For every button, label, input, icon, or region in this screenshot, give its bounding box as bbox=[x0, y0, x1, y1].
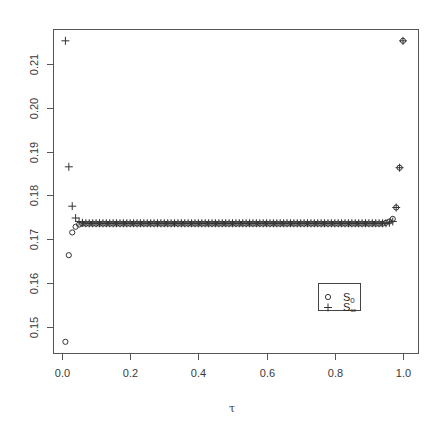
y-tick-label: 0.17 bbox=[28, 229, 40, 250]
x-tick-label: 0.6 bbox=[260, 367, 275, 379]
x-tick-label: 0.0 bbox=[55, 367, 70, 379]
x-tick-label: 1.0 bbox=[396, 367, 411, 379]
x-tick-label: 0.8 bbox=[328, 367, 343, 379]
x-tick-label: 0.4 bbox=[191, 367, 206, 379]
scatter-chart: 0.150.160.170.180.190.200.21 0.00.20.40.… bbox=[0, 0, 439, 428]
chart-background bbox=[0, 0, 439, 428]
y-tick-label: 0.16 bbox=[28, 273, 40, 294]
legend: S0 S∞ bbox=[319, 284, 361, 316]
x-tick-label: 0.2 bbox=[123, 367, 138, 379]
y-tick-label: 0.15 bbox=[28, 317, 40, 338]
x-axis-title: τ bbox=[229, 402, 235, 415]
y-tick-label: 0.19 bbox=[28, 142, 40, 163]
y-tick-label: 0.18 bbox=[28, 185, 40, 206]
y-tick-label: 0.21 bbox=[28, 54, 40, 75]
y-tick-label: 0.20 bbox=[28, 98, 40, 119]
